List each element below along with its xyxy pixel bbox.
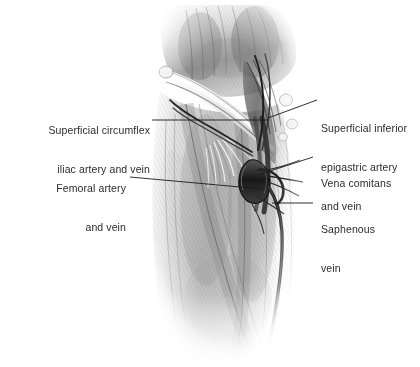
label-line: Superficial circumflex [4, 124, 150, 137]
label-line: Femoral artery [4, 182, 126, 195]
figure-canvas: Superficial circumflex iliac artery and … [0, 0, 420, 367]
label-line: Superficial inferior [321, 122, 419, 135]
label-femoral-artery-and-vein: Femoral artery and vein [4, 156, 126, 260]
label-line: Vena comitans [321, 177, 417, 190]
label-line: Saphenous [321, 223, 411, 236]
label-line: and vein [4, 221, 126, 234]
label-line: vein [321, 262, 411, 275]
label-saphenous-vein: Saphenous vein [321, 197, 411, 301]
